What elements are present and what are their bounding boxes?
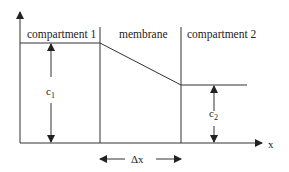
x-axis-label: x (268, 138, 274, 150)
concentration-profile (20, 43, 247, 85)
concentration-diagram: x compartment 1 membrane compartment 2 c… (0, 0, 289, 172)
c1-label: c1 (46, 85, 55, 100)
compartment-1-label: compartment 1 (27, 28, 97, 41)
c2-label: c2 (209, 107, 218, 122)
delta-x-label: Δx (131, 153, 144, 165)
membrane-label: membrane (119, 28, 168, 40)
compartment-2-label: compartment 2 (187, 28, 257, 41)
